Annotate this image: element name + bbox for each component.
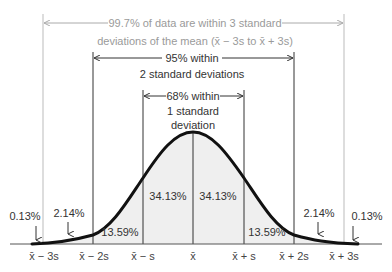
outer-annotation-line1: 99.7% of data are within 3 standard bbox=[108, 17, 281, 29]
outer-annotation-line2: deviations of the mean (x̄ − 3s to x̄ + … bbox=[97, 35, 293, 47]
middle-annotation-line2: 2 standard deviations bbox=[140, 68, 245, 80]
tick-minus-1s: x̄ − s bbox=[131, 250, 155, 262]
region-right-0-1: 34.13% bbox=[199, 190, 237, 202]
inner-annotation-line2: 1 standard bbox=[167, 105, 219, 117]
region-left-0-1: 34.13% bbox=[149, 190, 187, 202]
inner-annotation-line3: deviation bbox=[171, 119, 215, 131]
curve-fill bbox=[32, 132, 358, 244]
middle-annotation-line1: 95% within bbox=[165, 52, 218, 64]
tick-minus-2s: x̄ − 2s bbox=[79, 250, 109, 262]
region-left-tail: 0.13% bbox=[9, 210, 40, 222]
region-left-2-3: 2.14% bbox=[53, 207, 84, 219]
region-left-1-2: 13.59% bbox=[101, 226, 139, 238]
tick-mean: x̄ bbox=[190, 250, 196, 262]
normal-distribution-diagram: 99.7% of data are within 3 standard devi… bbox=[0, 0, 392, 272]
tick-plus-1s: x̄ + s bbox=[232, 250, 256, 262]
tick-plus-2s: x̄ + 2s bbox=[279, 250, 309, 262]
inner-annotation-line1: 68% within bbox=[166, 90, 219, 102]
tick-minus-3s: x̄ − 3s bbox=[29, 250, 59, 262]
region-right-1-2: 13.59% bbox=[248, 226, 286, 238]
tick-plus-3s: x̄ + 3s bbox=[329, 250, 359, 262]
region-right-2-3: 2.14% bbox=[303, 207, 334, 219]
region-right-tail: 0.13% bbox=[351, 210, 382, 222]
